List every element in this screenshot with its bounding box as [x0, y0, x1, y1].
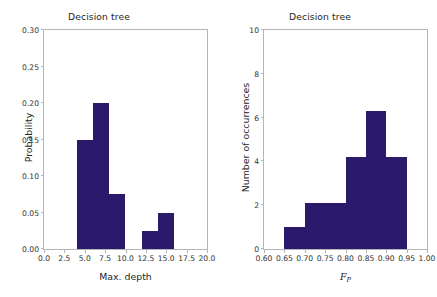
y-axis-label-left: Probability — [23, 58, 34, 218]
x-tick-label: 5.0 — [79, 254, 91, 263]
x-tick-mark — [386, 249, 387, 253]
x-tick-label: 0.90 — [378, 254, 395, 263]
y-tick-mark — [261, 204, 265, 205]
histogram-bar — [386, 157, 406, 249]
y-tick-mark — [41, 139, 45, 140]
x-tick-label: 7.5 — [99, 254, 111, 263]
x-tick-mark — [207, 249, 208, 253]
histogram-bar — [158, 213, 174, 250]
x-tick-mark — [366, 249, 367, 253]
y-tick-mark — [261, 117, 265, 118]
histogram-bar — [109, 194, 125, 249]
x-tick-label: 20.0 — [199, 254, 216, 263]
x-tick-mark — [44, 249, 45, 253]
x-tick-mark — [325, 249, 326, 253]
x-tick-label: 0.70 — [296, 254, 313, 263]
subplot-max-depth: Decision tree 0.000.050.100.150.200.250.… — [0, 0, 218, 297]
y-tick-label: 6 — [254, 113, 259, 122]
x-tick-label: 15.0 — [158, 254, 175, 263]
plot-area-right — [264, 30, 427, 249]
y-tick-mark — [41, 175, 45, 176]
y-tick-mark — [261, 73, 265, 74]
x-tick-mark — [264, 249, 265, 253]
subplot-fp: Decision tree 0246810 0.600.650.700.750.… — [219, 0, 437, 297]
x-tick-mark — [407, 249, 408, 253]
x-tick-mark — [346, 249, 347, 253]
x-tick-mark — [64, 249, 65, 253]
y-tick-mark — [41, 29, 45, 30]
plot-title-right: Decision tree — [235, 11, 405, 22]
histogram-bar — [346, 157, 366, 249]
y-tick-label: 2 — [254, 201, 259, 210]
x-tick-label: 12.5 — [137, 254, 154, 263]
x-tick-mark — [427, 249, 428, 253]
x-tick-label: 10.0 — [117, 254, 134, 263]
y-axis-label-right: Number of occurrences — [240, 58, 251, 218]
x-axis-label-right: FP — [263, 271, 428, 284]
x-tick-mark — [187, 249, 188, 253]
x-tick-label: 0.65 — [276, 254, 293, 263]
x-tick-label: 17.5 — [178, 254, 195, 263]
x-tick-mark — [284, 249, 285, 253]
y-tick-label: 0 — [254, 245, 259, 254]
histogram-bar — [366, 111, 386, 249]
y-tick-mark — [41, 66, 45, 67]
x-tick-mark — [85, 249, 86, 253]
x-tick-label: 2.5 — [58, 254, 70, 263]
x-tick-label: 0.60 — [256, 254, 273, 263]
y-tick-label: 0.30 — [22, 26, 39, 35]
x-axis-label-right-subscript: P — [346, 276, 351, 284]
x-tick-label: 0.75 — [317, 254, 334, 263]
histogram-bar — [93, 103, 109, 249]
x-tick-label: 0.80 — [337, 254, 354, 263]
histogram-bar — [284, 227, 304, 249]
y-tick-label: 0.00 — [22, 245, 39, 254]
x-tick-label: 0.95 — [398, 254, 415, 263]
x-tick-mark — [105, 249, 106, 253]
y-tick-mark — [261, 29, 265, 30]
axes-frame-left: 0.000.050.100.150.200.250.30 0.02.55.07.… — [43, 29, 208, 250]
histogram-bar — [77, 140, 93, 250]
y-tick-mark — [41, 212, 45, 213]
x-tick-mark — [305, 249, 306, 253]
x-axis-label-left: Max. depth — [43, 271, 208, 282]
x-tick-label: 0.0 — [38, 254, 50, 263]
y-tick-mark — [261, 160, 265, 161]
histogram-bar — [142, 231, 158, 249]
y-tick-mark — [41, 102, 45, 103]
x-tick-mark — [126, 249, 127, 253]
plot-title-left: Decision tree — [14, 11, 184, 22]
y-tick-label: 4 — [254, 157, 259, 166]
y-tick-label: 10 — [249, 26, 259, 35]
x-tick-label: 0.85 — [357, 254, 374, 263]
x-tick-mark — [146, 249, 147, 253]
axes-frame-right: 0246810 0.600.650.700.750.800.850.900.95… — [263, 29, 428, 250]
histogram-bar — [305, 203, 346, 249]
plot-area-left — [44, 30, 207, 249]
x-tick-mark — [166, 249, 167, 253]
y-tick-label: 8 — [254, 69, 259, 78]
figure-canvas: Decision tree 0.000.050.100.150.200.250.… — [0, 0, 437, 297]
x-tick-label: 1.00 — [419, 254, 436, 263]
